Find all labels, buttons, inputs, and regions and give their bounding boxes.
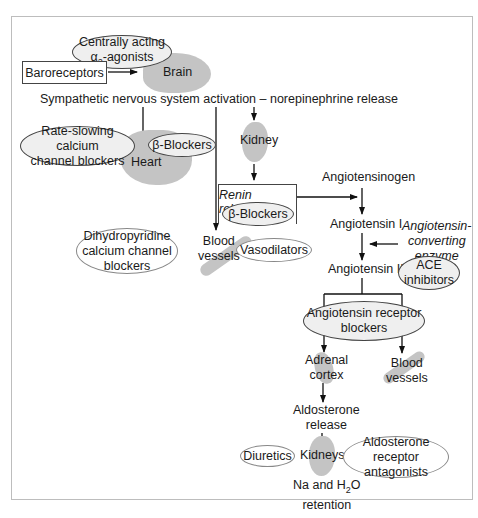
- diuretics: Diuretics: [240, 445, 295, 467]
- brain-label: Brain: [163, 65, 192, 80]
- blood-vessels-label-2: Bloodvessels: [386, 356, 428, 386]
- angiotensin-ii-label: Angiotensin II: [328, 262, 404, 277]
- blood-vessels-label: Bloodvessels: [198, 234, 240, 264]
- kidney-label: Kidney: [240, 133, 278, 148]
- dihydropyridine-calcium-channel-blockers: Dihydropyridinecalcium channelblockers: [76, 228, 178, 274]
- heart-label: Heart: [131, 155, 162, 170]
- aldosterone-receptor-antagonists: Aldosteronereceptor antagonists: [343, 436, 449, 478]
- baroreceptors-box: Baroreceptors: [22, 61, 107, 84]
- adrenal-cortex-label: Adrenalcortex: [305, 353, 348, 383]
- kidneys-label: Kidneys: [300, 448, 344, 463]
- vasodilators: Vasodilators: [236, 238, 312, 262]
- sympathetic-activation-label: Sympathetic nervous system activation – …: [40, 92, 398, 107]
- ace-inhibitors: ACEinhibitors: [398, 256, 460, 290]
- rate-slowing-calcium-channel-blockers: Rate-slowing calciumchannel blockers: [20, 126, 135, 166]
- angiotensinogen-label: Angiotensinogen: [322, 170, 415, 185]
- angiotensin-receptor-blockers: Angiotensin receptorblockers: [303, 301, 425, 341]
- beta-blockers-heart: β-Blockers: [148, 133, 216, 157]
- angiotensin-i-label: Angiotensin I: [330, 217, 402, 232]
- beta-blockers-renin: β-Blockers: [222, 202, 294, 226]
- aldosterone-release-label: Aldosteronerelease: [293, 403, 360, 433]
- sodium-water-retention-label: Na and H2O retention: [293, 478, 361, 513]
